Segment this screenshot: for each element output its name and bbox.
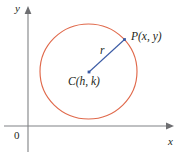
circumference-point-marker <box>123 38 126 41</box>
x-axis-arrowhead <box>166 123 174 130</box>
y-axis-arrowhead <box>25 6 32 14</box>
circle-figure: y x 0 P(x, y) C(h, k) r <box>0 0 187 161</box>
center-point-marker <box>88 71 91 74</box>
origin-label: 0 <box>14 130 20 141</box>
point-c-label: C(h, k) <box>68 76 100 88</box>
point-p-label: P(x, y) <box>131 31 162 43</box>
radius-segment <box>89 40 125 73</box>
y-axis-label: y <box>15 3 20 14</box>
x-axis-label: x <box>168 136 173 147</box>
radius-label: r <box>100 45 104 57</box>
